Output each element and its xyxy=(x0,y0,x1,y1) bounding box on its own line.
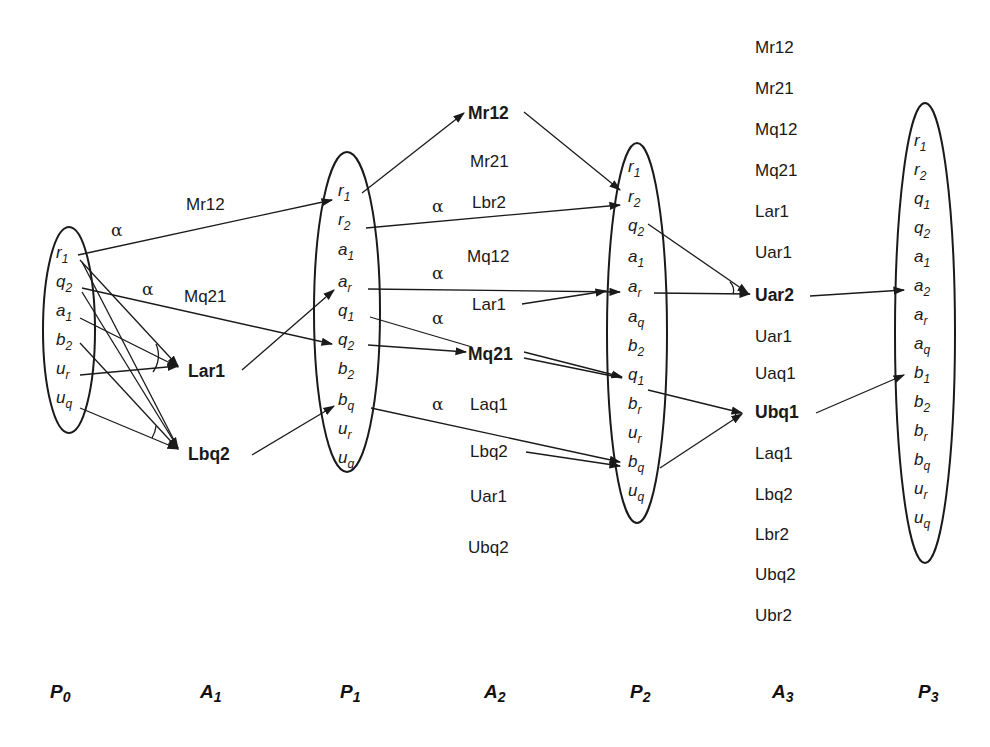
label-part: b xyxy=(914,421,923,440)
label-part: r xyxy=(347,281,352,295)
node-label: b2 xyxy=(914,392,930,415)
prop-r1: r1 xyxy=(56,243,68,266)
label-part: A xyxy=(771,681,786,702)
label-part: a xyxy=(628,247,637,266)
label-part: a xyxy=(914,334,923,353)
node-label: Mr12 xyxy=(468,103,509,123)
label-part: a xyxy=(338,272,347,291)
node-label: a1 xyxy=(628,247,644,270)
node-label: bq xyxy=(628,452,644,475)
node-label: uq xyxy=(914,508,930,531)
label-part: r xyxy=(65,368,70,382)
node-label: Lbq2 xyxy=(755,485,793,504)
node-label: Lar1 xyxy=(472,295,506,314)
node-label: ur xyxy=(338,419,352,442)
node-label: Uar1 xyxy=(470,487,507,506)
node-label: r2 xyxy=(628,187,641,210)
label-part: b xyxy=(914,392,923,411)
label-part: q xyxy=(347,399,354,413)
planning-graph-diagram: α α α α α α r1 q2 a1 b2 ur uq Mr12 Mq21 … xyxy=(0,0,990,747)
node-label: Lbq2 xyxy=(470,442,508,461)
node-label: Laq1 xyxy=(755,444,793,463)
label-part: 2 xyxy=(64,339,72,353)
alpha-label: α xyxy=(432,263,444,283)
node-label: a2 xyxy=(914,276,930,299)
prop-ur: ur xyxy=(56,359,70,382)
prop-q2: q2 xyxy=(56,272,72,295)
label-part: a xyxy=(628,307,637,326)
label-part: P xyxy=(918,681,931,702)
label-part: q xyxy=(347,457,354,471)
label-part: q xyxy=(637,490,644,504)
label-part: b xyxy=(914,363,923,382)
layer-label-A3: A3 xyxy=(771,681,794,705)
label-part: r xyxy=(923,488,928,502)
label-part: q xyxy=(923,517,930,531)
alpha-label: α xyxy=(432,196,444,216)
label-part: q xyxy=(923,459,930,473)
layer-A1-actions: Mr12 Mq21 Lar1 Lbq2 xyxy=(184,195,230,464)
node-label: br xyxy=(628,394,642,417)
node-label: q1 xyxy=(338,301,354,324)
label-part: 1 xyxy=(62,252,69,266)
label-part: q xyxy=(65,397,72,411)
node-label: ar xyxy=(338,272,352,295)
node-label: Lbr2 xyxy=(755,525,789,544)
label-part: b xyxy=(628,336,637,355)
node-label: r1 xyxy=(914,131,926,154)
layer-P0-propositions: r1 q2 a1 b2 ur uq xyxy=(56,243,72,411)
node-label: Ubq2 xyxy=(468,538,509,557)
label-part: 2 xyxy=(922,401,930,415)
label-part: b xyxy=(338,390,347,409)
layer-P2-propositions: r1 r2 q2 a1 ar aq b2 q1 br ur bq uq xyxy=(628,157,644,504)
node-label: aq xyxy=(628,307,644,330)
node-label: r1 xyxy=(338,181,350,204)
layer-labels: P0 A1 P1 A2 P2 A3 P3 xyxy=(50,681,939,705)
node-label: Mq21 xyxy=(468,344,513,364)
label-part: b xyxy=(338,359,347,378)
label-part: 3 xyxy=(786,689,794,705)
edges-A1-P1 xyxy=(242,290,334,455)
layer-label-P1: P1 xyxy=(340,681,361,705)
label-part: 2 xyxy=(346,368,354,382)
layer-A3-actions: Mr12 Mr21 Mq12 Mq21 Lar1 Uar1 Uar2 Uar1 … xyxy=(755,38,799,625)
label-part: 2 xyxy=(633,196,641,210)
label-part: r xyxy=(923,430,928,444)
node-label: Lar1 xyxy=(755,202,789,221)
label-part: 1 xyxy=(344,190,351,204)
label-part: r xyxy=(923,314,928,328)
action-Mr12: Mr12 xyxy=(186,195,225,214)
prop-uq: uq xyxy=(56,388,72,411)
label-part: r xyxy=(347,428,352,442)
label-part: 1 xyxy=(923,198,930,212)
node-label: r2 xyxy=(338,210,351,233)
layer-P1-propositions: r1 r2 a1 ar q1 q2 b2 bq ur uq xyxy=(338,181,354,471)
layer-label-A1: A1 xyxy=(199,681,222,705)
label-part: b xyxy=(914,450,923,469)
prop-b2: b2 xyxy=(56,330,72,353)
alpha-label: α xyxy=(432,394,444,414)
node-label: ar xyxy=(914,305,928,328)
label-part: 1 xyxy=(65,310,72,324)
label-part: q xyxy=(637,316,644,330)
node-label: a1 xyxy=(914,247,930,270)
label-part: a xyxy=(338,240,347,259)
layer-label-P3: P3 xyxy=(918,681,939,705)
node-label: Mq12 xyxy=(755,120,798,139)
node-label: Mr21 xyxy=(755,79,794,98)
label-part: 1 xyxy=(347,310,354,324)
node-label: Ubr2 xyxy=(755,606,792,625)
label-part: a xyxy=(914,276,923,295)
alpha-labels: α α α α α α xyxy=(111,196,444,414)
edges-A3-P3 xyxy=(810,290,904,413)
label-part: 2 xyxy=(64,281,72,295)
node-label: Mq12 xyxy=(467,247,510,266)
label-part: b xyxy=(628,452,637,471)
node-label: Ubq2 xyxy=(755,565,796,584)
label-part: P xyxy=(50,681,63,702)
label-part: 2 xyxy=(922,227,930,241)
node-label: q1 xyxy=(628,365,644,388)
layer-label-A2: A2 xyxy=(483,681,506,705)
node-label: b1 xyxy=(914,363,930,386)
node-label: bq xyxy=(914,450,930,473)
